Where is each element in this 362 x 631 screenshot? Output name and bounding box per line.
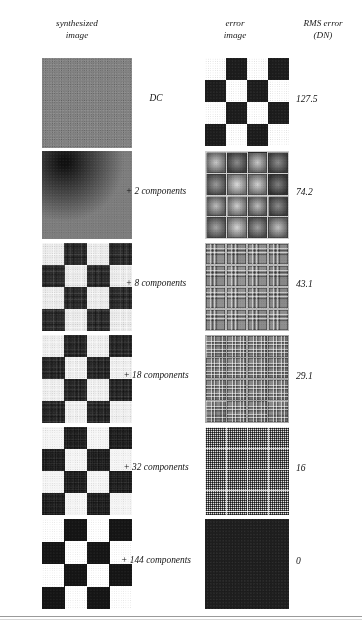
tile-grid xyxy=(205,151,289,239)
tile-grid xyxy=(205,243,289,331)
tile xyxy=(248,266,267,286)
tile xyxy=(206,174,226,195)
tile xyxy=(248,401,268,422)
tile xyxy=(227,336,247,357)
tile xyxy=(248,174,268,195)
figure-row: + 8 components 43.1 xyxy=(0,243,362,333)
tile xyxy=(268,401,288,422)
rms-error-value: 0 xyxy=(296,555,356,566)
tile xyxy=(227,217,247,238)
error-image-panel xyxy=(205,335,289,423)
figure-row: DC 127.5 xyxy=(0,58,362,148)
tile xyxy=(248,358,268,379)
tile xyxy=(227,358,247,379)
row-label: DC xyxy=(110,93,202,103)
tile xyxy=(206,358,226,379)
error-image-panel xyxy=(205,427,289,515)
error-image-panel xyxy=(205,519,289,609)
tile xyxy=(268,174,288,195)
tile xyxy=(268,358,288,379)
tile xyxy=(206,288,225,308)
row-label: + 8 components xyxy=(110,278,202,288)
row-label: + 18 components xyxy=(110,370,202,380)
page-divider-rule xyxy=(0,616,362,617)
tile xyxy=(269,288,288,308)
rms-error-value: 74.2 xyxy=(296,186,356,197)
error-image-panel xyxy=(205,58,289,146)
uniform-dark-field xyxy=(205,519,289,609)
tile xyxy=(248,244,267,264)
rms-error-value: 127.5 xyxy=(296,93,356,104)
tile xyxy=(206,310,225,330)
tile xyxy=(248,196,268,217)
tile xyxy=(248,217,268,238)
tile xyxy=(227,244,246,264)
tile xyxy=(248,380,268,401)
column-header-synthesized-image: synthesized image xyxy=(22,18,132,41)
tile xyxy=(269,310,288,330)
tile xyxy=(268,380,288,401)
tile xyxy=(248,336,268,357)
figure-row: + 2 components 74.2 xyxy=(0,151,362,241)
tile xyxy=(206,152,226,173)
tile xyxy=(206,196,226,217)
tile xyxy=(248,310,267,330)
tile xyxy=(227,152,247,173)
tile xyxy=(269,244,288,264)
tile xyxy=(268,217,288,238)
rms-error-value: 43.1 xyxy=(296,278,356,289)
error-image-panel xyxy=(205,151,289,239)
error-image-panel xyxy=(205,243,289,331)
uniform-gray-field xyxy=(42,58,132,148)
tile xyxy=(206,336,226,357)
synthesized-image-panel xyxy=(42,58,132,148)
tile xyxy=(227,266,246,286)
tile xyxy=(206,244,225,264)
page-divider-rule-secondary xyxy=(0,619,362,620)
tile xyxy=(227,310,246,330)
tile-boundary-lines xyxy=(205,427,289,515)
row-label: + 2 components xyxy=(110,186,202,196)
column-header-error-image: error image xyxy=(205,18,265,41)
tile xyxy=(268,336,288,357)
tile xyxy=(206,217,226,238)
tile xyxy=(248,288,267,308)
tile xyxy=(227,288,246,308)
row-label: + 144 components xyxy=(110,555,202,565)
figure-row: + 32 components 16 xyxy=(0,427,362,517)
tile xyxy=(206,380,226,401)
row-label: + 32 components xyxy=(110,462,202,472)
figure-row: + 144 components 0 xyxy=(0,519,362,611)
tile xyxy=(206,266,225,286)
tile xyxy=(206,401,226,422)
tile xyxy=(227,380,247,401)
tile xyxy=(268,152,288,173)
tile xyxy=(268,196,288,217)
tile xyxy=(227,174,247,195)
checkerboard-pattern xyxy=(205,58,289,146)
figure-row: + 18 components 29.1 xyxy=(0,335,362,425)
rms-error-value: 16 xyxy=(296,462,356,473)
rms-error-value: 29.1 xyxy=(296,370,356,381)
tile xyxy=(248,152,268,173)
column-header-rms-error: RMS error (DN) xyxy=(286,18,360,41)
tile xyxy=(227,401,247,422)
tile xyxy=(227,196,247,217)
tile xyxy=(269,266,288,286)
tile-grid xyxy=(205,335,289,423)
